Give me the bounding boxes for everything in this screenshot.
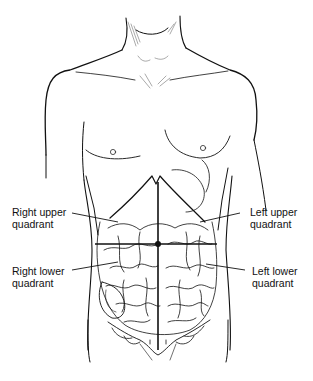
label-right-upper-line2: quadrant bbox=[12, 218, 66, 230]
abdominal-quadrants-diagram: Right upper quadrant Left upper quadrant… bbox=[0, 0, 313, 381]
leader-left-lower bbox=[206, 264, 245, 270]
leader-right-lower bbox=[72, 262, 118, 270]
label-left-upper-line1: Left upper bbox=[250, 206, 297, 218]
label-right-upper-line1: Right upper bbox=[12, 206, 66, 218]
label-left-upper-quadrant: Left upper quadrant bbox=[250, 206, 297, 230]
label-right-lower-line1: Right lower bbox=[12, 265, 65, 277]
label-right-upper-quadrant: Right upper quadrant bbox=[12, 206, 66, 230]
label-left-lower-quadrant: Left lower quadrant bbox=[252, 265, 298, 289]
label-left-upper-line2: quadrant bbox=[250, 218, 297, 230]
label-right-lower-line2: quadrant bbox=[12, 277, 65, 289]
umbilicus bbox=[155, 241, 161, 247]
intestines bbox=[97, 222, 217, 335]
right-nipple bbox=[110, 149, 115, 154]
neck-outline bbox=[122, 18, 127, 50]
torso-illustration bbox=[0, 0, 313, 381]
label-right-lower-quadrant: Right lower quadrant bbox=[12, 265, 65, 289]
left-pectoral bbox=[165, 130, 230, 158]
right-shoulder-outline bbox=[45, 50, 122, 155]
label-left-lower-line1: Left lower bbox=[252, 265, 298, 277]
label-left-lower-line2: quadrant bbox=[252, 277, 298, 289]
left-nipple bbox=[200, 145, 205, 150]
left-shoulder-outline bbox=[186, 48, 257, 140]
